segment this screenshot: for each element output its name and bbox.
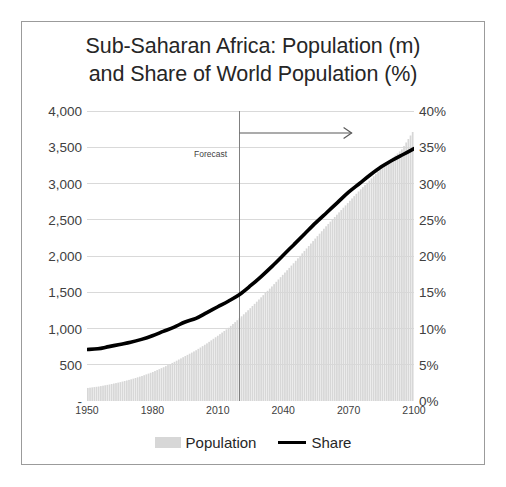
y-axis-left-tick: 4,000 <box>48 104 82 119</box>
y-axis-left-tick: 3,500 <box>48 140 82 155</box>
x-axis-tick: 2010 <box>206 404 229 416</box>
y-axis-left-tick: 3,000 <box>48 176 82 191</box>
x-axis-tick: 2040 <box>272 404 295 416</box>
chart-title-line-1: Sub-Saharan Africa: Population (m) <box>22 32 484 60</box>
x-axis-tick: 2070 <box>337 404 360 416</box>
y-axis-right-tick: 15% <box>419 285 446 300</box>
chart-svg <box>87 111 414 401</box>
share-swatch-icon <box>278 441 306 445</box>
population-swatch-icon <box>155 437 181 448</box>
forecast-annotation-label: Forecast <box>194 149 227 159</box>
y-axis-right-tick: 35% <box>419 140 446 155</box>
x-axis-tick: 1950 <box>75 404 98 416</box>
plot-area <box>87 111 414 401</box>
y-axis-right-tick: 40% <box>419 104 446 119</box>
legend-item-share: Share <box>278 434 351 451</box>
chart-container: Sub-Saharan Africa: Population (m) and S… <box>21 21 485 465</box>
legend-label-share: Share <box>311 434 351 451</box>
y-axis-right-tick: 20% <box>419 249 446 264</box>
legend-item-population: Population <box>155 434 257 451</box>
y-axis-left-tick: 2,000 <box>48 249 82 264</box>
x-axis-tick: 1980 <box>141 404 164 416</box>
legend-label-population: Population <box>186 434 257 451</box>
y-axis-right-tick: 5% <box>419 357 439 372</box>
y-axis-left-tick: 1,500 <box>48 285 82 300</box>
y-axis-left-tick: 1,000 <box>48 321 82 336</box>
chart-legend: Population Share <box>22 434 484 451</box>
population-area-series <box>87 132 414 401</box>
x-axis: 195019802010204020702100 <box>87 404 414 422</box>
y-axis-left-tick: 500 <box>59 357 82 372</box>
y-axis-right-tick: 30% <box>419 176 446 191</box>
chart-title: Sub-Saharan Africa: Population (m) and S… <box>22 32 484 88</box>
chart-title-line-2: and Share of World Population (%) <box>22 60 484 88</box>
y-axis-right: 40%35%30%25%20%15%10%5%0% <box>419 111 479 401</box>
y-axis-right-tick: 10% <box>419 321 446 336</box>
y-axis-right-tick: 25% <box>419 212 446 227</box>
x-axis-tick: 2100 <box>402 404 425 416</box>
y-axis-left: 4,0003,5003,0002,5002,0001,5001,000500- <box>32 111 82 401</box>
forecast-arrow <box>240 128 352 139</box>
y-axis-left-tick: 2,500 <box>48 212 82 227</box>
